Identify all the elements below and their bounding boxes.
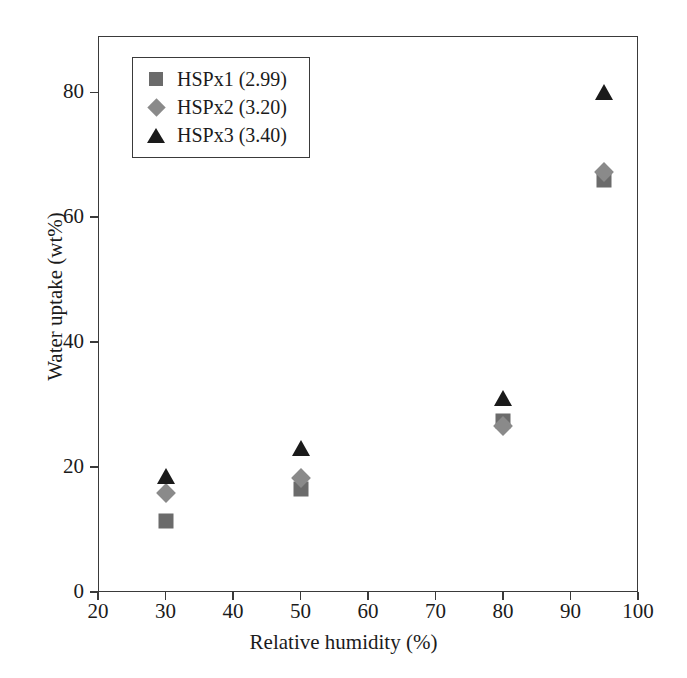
x-axis-tick-label: 40 [223,601,244,622]
legend-square-icon [143,72,169,86]
y-axis-tick-mark [90,466,98,467]
y-axis-label: Water uptake (wt%) [43,97,68,497]
legend-item-label: HSPx1 (2.99) [169,69,287,89]
y-axis-tick-mark [90,216,98,217]
x-axis-tick-label: 100 [622,601,654,622]
x-axis-tick-label: 90 [560,601,581,622]
x-axis-tick-label: 70 [425,601,446,622]
x-axis-tick-label: 50 [290,601,311,622]
y-axis-tick-mark [90,92,98,93]
x-axis-tick-label: 20 [88,601,109,622]
legend-item[interactable]: HSPx1 (2.99) [143,65,301,93]
chart-legend: HSPx1 (2.99)HSPx2 (3.20)HSPx3 (3.40) [132,57,310,158]
legend-diamond-icon [143,101,169,114]
legend-item-label: HSPx3 (3.40) [169,125,287,145]
x-axis-label: Relative humidity (%) [0,630,687,655]
x-axis-tick-label: 60 [358,601,379,622]
y-axis-tick-mark [90,341,98,342]
x-axis-tick-label: 30 [155,601,176,622]
legend-triangle-icon [143,128,169,143]
scatter-chart-figure: 0204060802030405060708090100 Relative hu… [0,0,687,678]
y-axis-tick-label: 0 [0,581,84,602]
legend-item[interactable]: HSPx3 (3.40) [143,121,301,149]
x-axis-tick-label: 80 [493,601,514,622]
legend-item[interactable]: HSPx2 (3.20) [143,93,301,121]
legend-item-label: HSPx2 (3.20) [169,97,287,117]
